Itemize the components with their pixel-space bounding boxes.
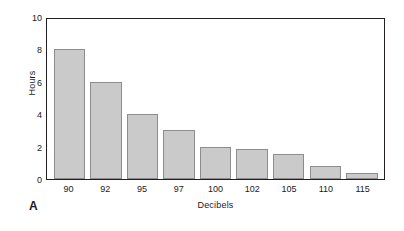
x-tick-97: 97 [160,184,197,194]
y-tick-10: 10 [22,14,42,23]
bar-slot [88,19,125,179]
bar-115 [346,173,377,179]
x-axis-label: Decibels [46,200,385,210]
bar-100 [200,147,231,179]
bar-slot [270,19,307,179]
bar-90 [54,49,85,179]
bar-slot [124,19,161,179]
x-tick-102: 102 [234,184,271,194]
bar-slot [197,19,234,179]
bar-105 [273,154,304,179]
x-tick-110: 110 [307,184,344,194]
x-tick-105: 105 [271,184,308,194]
bar-slot [344,19,381,179]
y-tick-6: 6 [22,78,42,87]
y-tick-8: 8 [22,46,42,55]
bar-slot [234,19,271,179]
bar-97 [163,130,194,179]
bar-110 [310,166,341,179]
panel-letter: A [29,200,38,212]
plot-area [46,18,385,180]
y-axis-tick-labels: 0246810 [22,18,42,180]
y-tick-0: 0 [22,176,42,185]
x-tick-115: 115 [344,184,381,194]
x-tick-92: 92 [87,184,124,194]
bar-slot [161,19,198,179]
x-tick-100: 100 [197,184,234,194]
bar-92 [90,82,121,179]
x-tick-95: 95 [124,184,161,194]
bar-slot [307,19,344,179]
y-tick-4: 4 [22,111,42,120]
bar-slot [51,19,88,179]
x-axis-tick-labels: 90929597100102105110115 [46,184,385,194]
bar-95 [127,114,158,179]
figure-panel-a: Hours 0246810 90929597100102105110115 De… [0,0,404,231]
x-tick-90: 90 [50,184,87,194]
bar-102 [236,149,267,179]
y-tick-2: 2 [22,143,42,152]
bar-series [47,19,384,179]
